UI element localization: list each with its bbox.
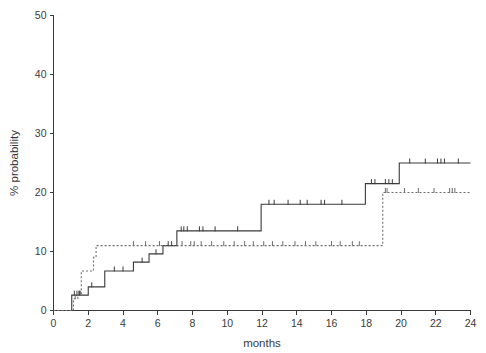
x-tick-label: 22 <box>430 317 442 329</box>
km-plot-svg: 01020304050 024681012141618202224 months… <box>0 0 486 353</box>
y-axis-ticks: 01020304050 <box>35 9 54 316</box>
x-axis-title: months <box>243 337 281 349</box>
x-tick-label: 18 <box>360 317 372 329</box>
x-tick-label: 16 <box>326 317 338 329</box>
y-tick-label: 50 <box>35 9 47 21</box>
x-axis-ticks: 024681012141618202224 <box>51 311 477 329</box>
censoring-marks <box>74 159 458 300</box>
y-tick-label: 10 <box>35 245 47 257</box>
x-tick-label: 20 <box>395 317 407 329</box>
y-axis-title: % probability <box>8 130 20 196</box>
x-tick-label: 8 <box>190 317 196 329</box>
km-curve-solid-curve <box>54 163 471 311</box>
x-tick-label: 4 <box>120 317 126 329</box>
x-tick-label: 14 <box>291 317 303 329</box>
x-tick-label: 2 <box>85 317 91 329</box>
data-series <box>54 163 471 311</box>
y-tick-label: 20 <box>35 186 47 198</box>
x-tick-label: 6 <box>155 317 161 329</box>
x-tick-label: 0 <box>51 317 57 329</box>
y-tick-label: 0 <box>41 304 47 316</box>
y-tick-label: 30 <box>35 127 47 139</box>
y-tick-label: 40 <box>35 68 47 80</box>
x-tick-label: 10 <box>221 317 233 329</box>
x-tick-label: 12 <box>256 317 268 329</box>
chart-figure: 01020304050 024681012141618202224 months… <box>0 0 486 353</box>
km-curve-dashed-curve <box>54 193 471 311</box>
x-tick-label: 24 <box>465 317 477 329</box>
